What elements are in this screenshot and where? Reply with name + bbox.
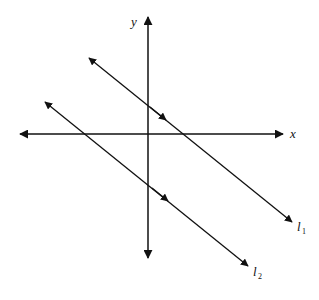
line-l2 <box>45 102 248 266</box>
line-l2-mid-arrow <box>152 188 168 201</box>
l2-label: l <box>253 264 257 279</box>
l2-label-sub: 2 <box>258 272 262 281</box>
l1-label: l <box>297 219 301 234</box>
l1-label-sub: 1 <box>302 227 306 236</box>
coordinate-diagram: y x l 1 l 2 <box>0 0 319 300</box>
line-l1-mid-arrow <box>150 107 166 120</box>
x-axis-label: x <box>289 126 296 141</box>
line-l1 <box>89 58 292 222</box>
y-axis-label: y <box>129 14 137 29</box>
